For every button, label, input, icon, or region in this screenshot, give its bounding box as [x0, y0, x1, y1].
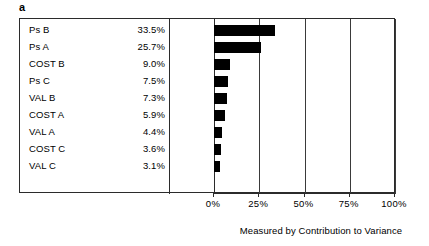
x-tick [213, 193, 214, 197]
chart-row: VAL B7.3% [20, 90, 396, 107]
bar-track [214, 93, 395, 104]
x-tick [304, 193, 305, 197]
chart-row: Ps C7.5% [20, 73, 396, 90]
bar [214, 25, 275, 36]
row-value-label: 9.0% [110, 57, 165, 71]
bar-track [214, 59, 395, 70]
bar-track [214, 161, 395, 172]
row-category-label: VAL B [29, 91, 55, 105]
x-axis-caption: Measured by Contribution to Variance [213, 224, 429, 237]
bar [214, 144, 221, 155]
chart-row: COST B9.0% [20, 56, 396, 73]
bar [214, 93, 227, 104]
row-category-label: Ps A [29, 40, 49, 54]
bar-track [214, 127, 395, 138]
bar-track [214, 25, 395, 36]
row-category-label: VAL C [29, 159, 56, 173]
chart-row: COST C3.6% [20, 141, 396, 158]
row-category-label: COST A [29, 108, 64, 122]
row-value-label: 4.4% [110, 125, 165, 139]
bar [214, 110, 225, 121]
chart-row: Ps B33.5% [20, 22, 396, 39]
bar [214, 127, 222, 138]
panel-letter: a [19, 1, 25, 14]
row-value-label: 7.3% [110, 91, 165, 105]
x-tick-label: 50% [294, 198, 314, 210]
row-category-label: VAL A [29, 125, 55, 139]
x-axis: 0%25%50%75%100% [213, 193, 395, 194]
bar [214, 161, 220, 172]
chart-row: VAL A4.4% [20, 124, 396, 141]
row-value-label: 7.5% [110, 74, 165, 88]
chart-row: COST A5.9% [20, 107, 396, 124]
bar-track [214, 144, 395, 155]
x-tick-label: 0% [206, 198, 220, 210]
bar [214, 76, 228, 87]
row-value-label: 3.6% [110, 142, 165, 156]
row-value-label: 5.9% [110, 108, 165, 122]
row-category-label: Ps C [29, 74, 50, 88]
chart-frame: Ps B33.5%Ps A25.7%COST B9.0%Ps C7.5%VAL … [19, 18, 395, 193]
x-tick-label: 75% [339, 198, 359, 210]
chart-row: Ps A25.7% [20, 39, 396, 56]
x-tick [349, 193, 350, 197]
x-tick [258, 193, 259, 197]
bar [214, 42, 261, 53]
row-value-label: 3.1% [110, 159, 165, 173]
bar [214, 59, 230, 70]
x-tick [394, 193, 395, 197]
bar-track [214, 42, 395, 53]
row-category-label: COST C [29, 142, 65, 156]
chart-row: VAL C3.1% [20, 158, 396, 175]
x-tick-label: 25% [248, 198, 268, 210]
bar-track [214, 110, 395, 121]
x-tick-label: 100% [381, 198, 407, 210]
row-category-label: Ps B [29, 23, 49, 37]
row-category-label: COST B [29, 57, 65, 71]
bar-track [214, 76, 395, 87]
row-value-label: 33.5% [110, 23, 165, 37]
chart-rows: Ps B33.5%Ps A25.7%COST B9.0%Ps C7.5%VAL … [20, 19, 396, 175]
row-value-label: 25.7% [110, 40, 165, 54]
